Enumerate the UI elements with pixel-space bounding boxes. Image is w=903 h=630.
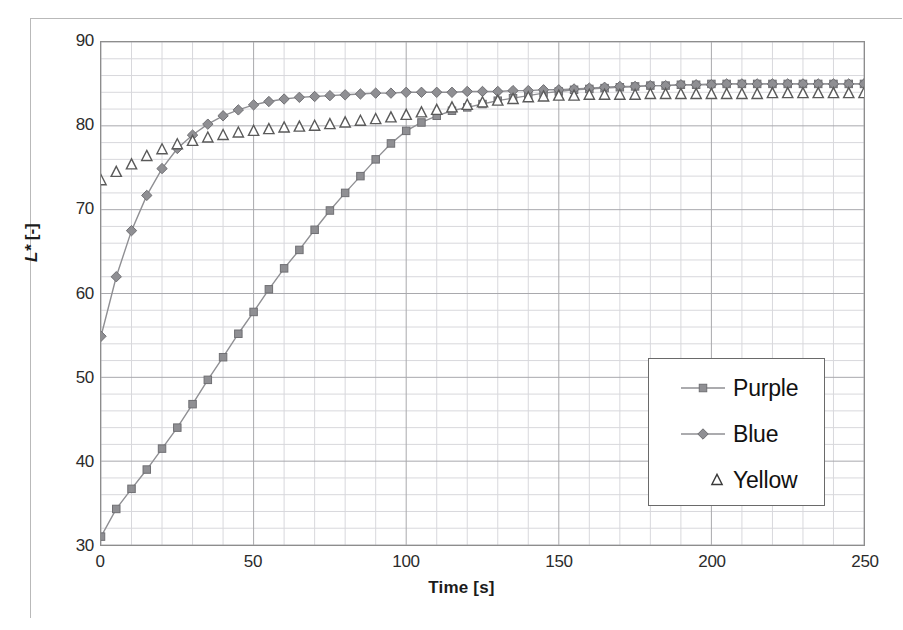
x-axis-title: Time [s] xyxy=(0,578,903,598)
y-axis-unit: [-] xyxy=(22,223,41,240)
x-tick-150: 150 xyxy=(529,552,589,572)
chart-legend: PurpleBlueYellow xyxy=(648,358,825,506)
chart-canvas: 30405060708090 050100150200250 L* [-] Ti… xyxy=(0,0,903,630)
diamond-marker-icon xyxy=(677,422,729,446)
x-axis-title-text: Time [s] xyxy=(428,578,494,598)
y-axis-unit-spacer xyxy=(22,240,41,245)
legend-label: Yellow xyxy=(733,467,797,494)
legend-item-yellow[interactable]: Yellow xyxy=(649,457,826,503)
square-marker-icon xyxy=(677,376,729,400)
x-tick-200: 200 xyxy=(682,552,742,572)
x-tick-100: 100 xyxy=(376,552,436,572)
y-axis-title: L* [-] xyxy=(22,223,42,262)
legend-item-purple[interactable]: Purple xyxy=(649,365,826,411)
triangle-marker-icon xyxy=(677,468,729,492)
y-axis-symbol: L* xyxy=(22,245,41,262)
x-axis-tick-labels: 050100150200250 xyxy=(0,0,903,630)
legend-item-blue[interactable]: Blue xyxy=(649,411,826,457)
x-tick-0: 0 xyxy=(70,552,130,572)
x-tick-50: 50 xyxy=(223,552,283,572)
x-tick-250: 250 xyxy=(835,552,895,572)
legend-label: Blue xyxy=(733,421,778,448)
legend-label: Purple xyxy=(733,375,798,402)
